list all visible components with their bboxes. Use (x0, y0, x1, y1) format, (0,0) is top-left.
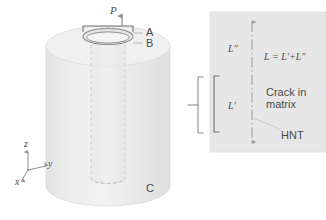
figure-container: P A B C z y x L″ L′ L = L′+L″ Crack in m… (0, 0, 326, 220)
axis-origin-dot (27, 169, 29, 171)
upper-length-label: L″ (228, 44, 238, 55)
inset-background (210, 12, 326, 152)
nanotube-end-ring (83, 29, 133, 45)
axis-label-z: z (24, 139, 28, 150)
point-label-c: C (146, 183, 154, 195)
inset-connector-bracket (188, 77, 203, 133)
ring-inner (87, 32, 129, 43)
crack-caption-line1: Crack in (266, 87, 306, 99)
axis-label-x: x (15, 177, 19, 188)
point-label-b: B (146, 38, 153, 50)
inner-column-outline (91, 33, 125, 184)
axis-y-line (28, 166, 46, 170)
coordinate-axes (22, 152, 46, 180)
load-label-p: P (110, 5, 117, 17)
axis-x-line (22, 170, 28, 180)
axis-label-y: y (48, 159, 52, 170)
crack-caption-line2: matrix (266, 99, 296, 111)
nanotube-label: HNT (281, 130, 304, 142)
lower-length-label: L′ (228, 101, 236, 112)
inset-panel (210, 12, 326, 152)
embedded-nanotube-column (91, 28, 125, 184)
length-equation: L = L′+L″ (264, 52, 305, 63)
